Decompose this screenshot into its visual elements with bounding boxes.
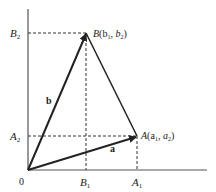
label-A2: A2 (9, 130, 21, 144)
label-B2: B2 (10, 27, 21, 41)
vector-b-label: b (46, 95, 52, 106)
point-B-label: B(b1, b2) (93, 28, 127, 40)
label-B1: B1 (80, 176, 91, 190)
point-A-label: A(a1, a2) (140, 130, 174, 142)
vector-diagram: 0 B2 A2 B1 A1 B(b1, b2) A(a1, a2) b a (0, 0, 216, 192)
segment-AB (86, 33, 137, 136)
label-A1: A1 (131, 176, 143, 190)
origin-label: 0 (19, 176, 24, 187)
vector-a-label: a (110, 143, 115, 154)
vector-b (28, 34, 86, 170)
vector-a (28, 137, 136, 170)
